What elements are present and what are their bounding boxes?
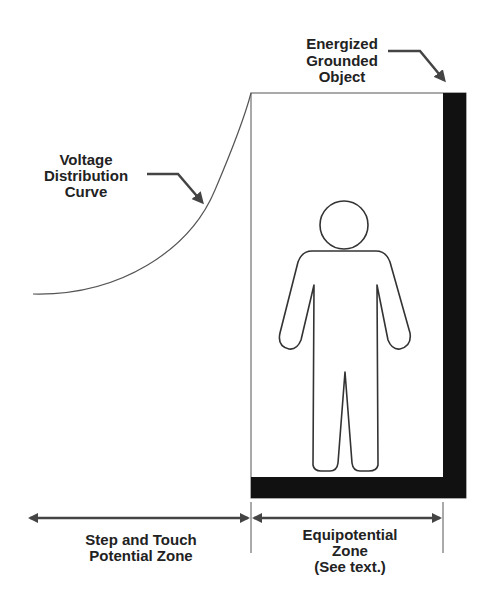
person-figure [279, 201, 410, 471]
energized-object-pointer-arrow [388, 51, 444, 80]
svg-text:Energized: Energized [306, 35, 378, 52]
svg-text:Equipotential: Equipotential [303, 526, 398, 543]
svg-text:Step and Touch: Step and Touch [85, 531, 196, 548]
equipotential-zone-label: Equipotential Zone (See text.) [303, 526, 398, 575]
svg-text:Zone: Zone [332, 542, 368, 559]
svg-text:Potential Zone: Potential Zone [89, 547, 192, 564]
svg-text:Distribution: Distribution [44, 167, 128, 184]
voltage-curve-pointer-arrow [147, 174, 202, 202]
person-head [320, 201, 368, 249]
svg-text:Voltage: Voltage [59, 151, 112, 168]
svg-text:(See text.): (See text.) [314, 558, 386, 575]
svg-text:Object: Object [319, 68, 366, 85]
ground-mat-bar [251, 477, 466, 498]
equipotential-zone-diagram: Energized Grounded Object Voltage Distri… [0, 0, 482, 605]
equipotential-box [251, 93, 466, 498]
energized-object-label: Energized Grounded Object [306, 35, 378, 85]
svg-text:Grounded: Grounded [306, 52, 378, 69]
person-body [279, 251, 410, 471]
step-touch-zone-label: Step and Touch Potential Zone [85, 531, 196, 564]
voltage-curve-label: Voltage Distribution Curve [44, 151, 128, 200]
grounded-object-bar [443, 93, 466, 498]
svg-text:Curve: Curve [65, 183, 108, 200]
